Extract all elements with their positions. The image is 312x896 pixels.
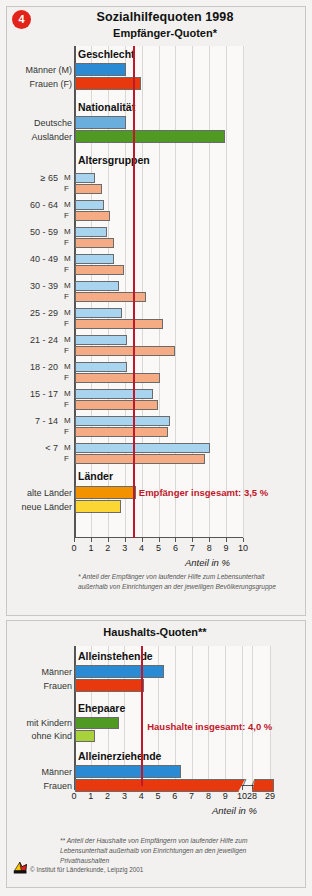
bar-label: Frauen (F) [2, 79, 72, 89]
bar-sublabel: F [64, 265, 69, 274]
bar-sublabel: M [64, 254, 71, 263]
bar-alleinstehende-1 [75, 679, 144, 692]
x-tick-label: 2 [101, 543, 115, 553]
x-tick-label: 4 [134, 791, 148, 801]
bar-alleinstehende-0 [75, 665, 164, 678]
bar-altersgruppen-5 [75, 238, 114, 248]
bar-altersgruppen-16 [75, 389, 153, 399]
x-tick-label: 1 [84, 791, 98, 801]
reference-line-empfaenger [133, 46, 135, 538]
bar-sublabel: F [64, 292, 69, 301]
bar-altersgruppen-6 [75, 254, 114, 264]
x-tick-label: 10 [236, 543, 250, 553]
bar-label: neue Länder [2, 502, 72, 512]
bar-label: Männer [2, 667, 72, 677]
bar-länder-1 [75, 500, 121, 513]
x-tick-label: 5 [151, 791, 165, 801]
bar-altersgruppen-9 [75, 292, 146, 302]
x-tickmark [192, 538, 193, 542]
x-tick-label: 2 [101, 791, 115, 801]
gridline [159, 46, 160, 538]
bar-alleinerziehende-0 [75, 765, 181, 778]
bar-label: 30 - 39 [2, 281, 58, 291]
x-axis-label: Anteil in % [185, 557, 230, 568]
bar-label: < 7 [2, 443, 58, 453]
bar-altersgruppen-2 [75, 200, 104, 210]
bar-altersgruppen-3 [75, 211, 110, 221]
bar-sublabel: M [64, 200, 71, 209]
x-tick-label: 4 [135, 543, 149, 553]
group-header-altersgruppen: Altersgruppen [78, 154, 150, 166]
x-tickmark [226, 538, 227, 542]
x-tick-label: 7 [185, 543, 199, 553]
bar-label: 50 - 59 [2, 227, 58, 237]
bar-label: 18 - 20 [2, 362, 58, 372]
x-tickmark [108, 538, 109, 542]
bar-altersgruppen-13 [75, 346, 175, 356]
group-header-geschlecht: Geschlecht [78, 48, 135, 60]
gridline [242, 646, 243, 786]
bar-altersgruppen-20 [75, 443, 210, 453]
bar-sublabel: F [64, 454, 69, 463]
page-title: Sozialhilfequoten 1998 [40, 10, 290, 24]
bar-nationalität-0 [75, 116, 126, 129]
bar-sublabel: F [64, 427, 69, 436]
x-tick-label: 5 [152, 543, 166, 553]
bar-altersgruppen-10 [75, 308, 122, 318]
bar-sublabel: F [64, 346, 69, 355]
x-tick-label: 8 [202, 543, 216, 553]
bar-label: 60 - 64 [2, 200, 58, 210]
bar-geschlecht-1 [75, 77, 141, 90]
x-tickmark [159, 538, 160, 542]
bar-altersgruppen-4 [75, 227, 107, 237]
bar-sublabel: M [64, 281, 71, 290]
bar-label: 7 - 14 [2, 416, 58, 426]
group-header-ehepaare: Ehepaare [78, 702, 125, 714]
reference-line-haushalte [141, 646, 143, 786]
chart1-plot-area: GeschlechtNationalitätAltersgruppenLände… [74, 46, 243, 538]
x-tick-label: 9 [219, 543, 233, 553]
x-tick-label: 0 [67, 791, 81, 801]
x-tick-label: 6 [168, 543, 182, 553]
gridline [192, 646, 193, 786]
bar-label: alte Länder [2, 488, 72, 498]
bar-label: Deutsche [2, 118, 72, 128]
chart1-footnote: * Anteil der Empfänger von laufender Hil… [78, 572, 278, 592]
bar-label: ohne Kind [2, 731, 72, 741]
axis-break-marks: / / [243, 778, 257, 788]
x-tickmark [91, 538, 92, 542]
x-tickmark [243, 538, 244, 542]
bar-altersgruppen-19 [75, 427, 168, 437]
x-tickmark [74, 786, 75, 790]
bar-alleinerziehende-1 [75, 779, 245, 792]
bar-altersgruppen-12 [75, 335, 127, 345]
figure-number-badge: 4 [12, 10, 31, 29]
institute-logo-icon [13, 860, 28, 875]
bar-sublabel: M [64, 227, 71, 236]
x-tickmark [74, 538, 75, 542]
bar-label: 40 - 49 [2, 254, 58, 264]
bar-altersgruppen-7 [75, 265, 124, 275]
bar-label: 15 - 17 [2, 389, 58, 399]
x-tick-label: 3 [117, 791, 131, 801]
bar-altersgruppen-8 [75, 281, 119, 291]
bar-altersgruppen-21 [75, 454, 205, 464]
bar-sublabel: M [64, 389, 71, 398]
bar-sublabel: F [64, 238, 69, 247]
bar-sublabel: M [64, 443, 71, 452]
bar-altersgruppen-1 [75, 184, 102, 194]
bar-länder-0 [75, 486, 136, 499]
x-tickmark [209, 538, 210, 542]
bar-altersgruppen-11 [75, 319, 163, 329]
x-tick-label: 29 [263, 791, 277, 801]
x-tickmark [142, 538, 143, 542]
bar-sublabel: M [64, 308, 71, 317]
gridline [208, 646, 209, 786]
group-header-länder: Länder [78, 470, 113, 482]
gridline [243, 46, 244, 538]
reference-line-label-empfaenger: Empfänger insgesamt: 3,5 % [139, 487, 268, 498]
bar-label: Frauen [2, 681, 72, 691]
group-header-alleinerziehende: Alleinerziehende [78, 750, 161, 762]
bar-altersgruppen-15 [75, 373, 160, 383]
gridline [209, 46, 210, 538]
